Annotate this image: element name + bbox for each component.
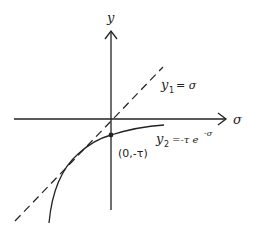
sigma-axis-label: σ: [233, 112, 243, 127]
svg-text:-σ: -σ: [204, 129, 213, 138]
y2-label: y 2 =-τ e -σ: [155, 129, 213, 149]
y2-curve: [49, 125, 164, 223]
svg-text:=-τ e: =-τ e: [172, 134, 198, 145]
y1-line: [15, 67, 163, 221]
diagram-canvas: y σ y 1 = σ y 2 =-τ e -σ (0,-τ): [0, 0, 257, 236]
svg-text:y: y: [160, 77, 169, 92]
point-label: (0,-τ): [118, 147, 148, 160]
svg-text:y: y: [155, 131, 164, 146]
svg-text:2: 2: [164, 140, 169, 149]
intersection-point: [109, 133, 114, 138]
svg-text:= σ: = σ: [176, 79, 197, 92]
y1-label: y 1 = σ: [160, 77, 197, 95]
svg-text:1: 1: [169, 86, 174, 95]
y-axis-label: y: [106, 10, 115, 25]
